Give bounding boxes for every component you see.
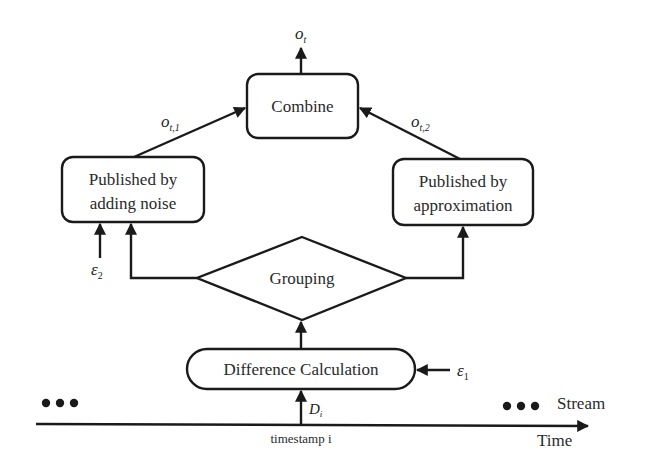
noise-label-line1: Published by — [89, 170, 178, 189]
combine-label: Combine — [271, 97, 333, 116]
timestamp-label: timestamp i — [270, 431, 331, 446]
approx-node: Published by approximation — [393, 159, 533, 225]
noise-to-combine-arrow — [134, 108, 245, 157]
timeline-arrow — [36, 424, 588, 426]
epsilon2-label: ε2 — [91, 260, 103, 281]
flow-diagram: ot Combine ot,1 ot,2 Published by adding… — [0, 0, 645, 476]
approx-label-line2: approximation — [413, 196, 513, 215]
time-label: Time — [537, 431, 572, 450]
difference-label: Difference Calculation — [224, 360, 379, 379]
data-label: Di — [308, 401, 323, 419]
grouping-to-approx-arrow — [406, 227, 463, 278]
epsilon1-label: ε1 — [457, 361, 469, 382]
grouping-to-noise-arrow — [131, 224, 197, 278]
noise-node: Published by adding noise — [62, 157, 204, 222]
stream-label: Stream — [557, 394, 605, 413]
output-label: ot — [295, 24, 307, 45]
grouping-label: Grouping — [269, 269, 335, 288]
combine-node: Combine — [247, 74, 358, 138]
noise-label-line2: adding noise — [90, 194, 176, 213]
output1-label: ot,1 — [161, 112, 180, 133]
approx-label-line1: Published by — [419, 172, 508, 191]
output2-label: ot,2 — [411, 112, 430, 133]
ellipsis-left — [42, 399, 78, 407]
ellipsis-right — [503, 402, 539, 410]
difference-node: Difference Calculation — [187, 349, 415, 389]
approx-to-combine-arrow — [360, 108, 460, 159]
grouping-node: Grouping — [197, 237, 406, 320]
